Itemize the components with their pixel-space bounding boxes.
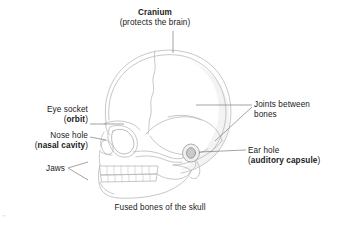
coronal-suture xyxy=(148,51,155,134)
chin-contour xyxy=(100,182,114,194)
joints-line1: Joints between xyxy=(254,100,310,109)
zygomatic-arch-lower xyxy=(136,156,182,162)
ear-hole-line1: Ear hole xyxy=(248,146,279,155)
eye-socket-close-paren: ) xyxy=(85,115,88,124)
ear-hole-close-paren: ) xyxy=(318,156,321,165)
eye-socket-term: orbit xyxy=(66,115,85,124)
maxilla-front xyxy=(99,150,100,165)
orbit-inner-rim xyxy=(112,129,134,154)
ear-hole-term: auditory capsule xyxy=(251,156,318,165)
nose-hole-term: nasal cavity xyxy=(38,141,86,150)
lower-teeth-divisions xyxy=(108,174,150,182)
leader-nose-hole xyxy=(90,137,106,140)
leader-jaws xyxy=(68,162,88,180)
squamosal-suture xyxy=(146,117,222,141)
joints-line2: bones xyxy=(254,110,277,119)
cranium-label: Cranium (protects the brain) xyxy=(95,8,215,29)
eye-socket-line1: Eye socket xyxy=(47,105,88,114)
caption-text: Fused bones of the skull xyxy=(114,203,205,212)
cranium-note: (protects the brain) xyxy=(120,18,191,27)
nose-hole-label: Nose hole (nasal cavity) xyxy=(0,131,88,152)
parietal-detail-line xyxy=(168,115,201,120)
joints-between-bones-label: Joints between bones xyxy=(254,100,354,121)
jaws-text: Jaws xyxy=(46,164,65,173)
nasal-aperture xyxy=(101,140,113,154)
ear-hole-label: Ear hole (auditory capsule) xyxy=(248,146,354,167)
jaws-label: Jaws xyxy=(20,164,65,174)
upper-teeth-divisions xyxy=(107,166,149,175)
figure-caption: Fused bones of the skull xyxy=(80,203,240,213)
nose-hole-close-paren: ) xyxy=(85,141,88,150)
ear-hole-inner xyxy=(187,148,196,158)
skull-diagram-figure: Cranium (protects the brain) Eye socket … xyxy=(0,0,355,225)
nose-hole-line1: Nose hole xyxy=(50,131,88,140)
cranium-term: Cranium xyxy=(138,8,172,17)
scan-artifact-mark: " xyxy=(3,214,6,221)
cranium-inner-contour xyxy=(109,55,226,152)
eye-socket-label: Eye socket (orbit) xyxy=(0,105,88,126)
